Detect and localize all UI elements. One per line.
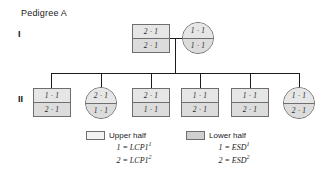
individual-child-1: 1 · 1 2 · 1 — [33, 88, 71, 117]
legend-upper-allele-2: 2 = LCP12 — [86, 153, 176, 166]
legend: Upper half 1 = LCP11 2 = LCP12 Lower hal… — [86, 131, 276, 167]
individual-founder-mother: 1 · 1 1 · 1 — [182, 22, 214, 54]
allele-upper: 1 · 1 — [182, 89, 218, 103]
legend-lower-allele-1: 1 = ESD1 — [186, 140, 276, 153]
legend-lower-allele-2-sup: 2 — [247, 154, 250, 160]
individual-child-4: 1 · 1 2 · 1 — [181, 88, 219, 117]
drop-line-child-3 — [151, 73, 152, 88]
generation-label-1: I — [18, 29, 21, 39]
generation-label-2: II — [18, 94, 23, 104]
legend-heading-upper: Upper half — [109, 131, 146, 140]
legend-heading-lower-row: Lower half — [186, 131, 276, 140]
allele-lower: 2 · 1 — [182, 103, 218, 116]
descent-line — [175, 38, 176, 73]
legend-lower-allele-1-num: 1 = — [218, 143, 231, 152]
legend-upper-allele-2-num: 2 = — [116, 156, 129, 165]
allele-upper: 1 · 1 — [183, 23, 213, 39]
legend-lower-allele-1-gene: ESD — [232, 143, 247, 152]
drop-line-child-1 — [51, 73, 52, 88]
allele-upper: 1 · 1 — [34, 89, 70, 103]
drop-line-child-4 — [200, 73, 201, 88]
legend-lower-allele-2-gene: ESD — [232, 156, 247, 165]
drop-line-child-6 — [299, 73, 300, 88]
allele-lower: 2 · 1 — [34, 103, 70, 116]
drop-line-child-2 — [101, 73, 102, 88]
allele-upper: 2 · 1 — [133, 25, 169, 39]
allele-upper: 2 · 1 — [133, 89, 169, 103]
legend-upper-allele-2-gene: LCP1 — [130, 156, 149, 165]
legend-lower-allele-1-sup: 1 — [247, 141, 250, 147]
legend-heading-lower: Lower half — [209, 131, 246, 140]
allele-upper: 1 · 1 — [232, 89, 268, 103]
legend-lower-allele-2-num: 2 = — [218, 156, 231, 165]
allele-upper: 2 · 1 — [86, 88, 116, 104]
individual-founder-father: 2 · 1 2 · 1 — [132, 24, 170, 53]
legend-upper-allele-1-gene: LCP1 — [130, 143, 149, 152]
legend-column-lower: Lower half 1 = ESD1 2 = ESD2 — [186, 131, 276, 167]
allele-lower: 2 · 1 — [284, 104, 314, 119]
page-title: Pedigree A — [21, 8, 67, 18]
legend-lower-allele-2: 2 = ESD2 — [186, 153, 276, 166]
individual-child-2: 2 · 1 1 · 1 — [85, 87, 117, 119]
legend-upper-allele-2-sup: 2 — [149, 154, 152, 160]
legend-upper-allele-1: 1 = LCP11 — [86, 140, 176, 153]
pedigree-diagram: Pedigree A I II 2 · 1 2 · 1 1 · 1 1 · 1 … — [0, 0, 336, 181]
legend-upper-allele-1-num: 1 = — [116, 143, 129, 152]
individual-child-5: 1 · 1 2 · 1 — [231, 88, 269, 117]
individual-child-6: 1 · 1 2 · 1 — [283, 87, 315, 119]
legend-upper-allele-1-sup: 1 — [149, 141, 152, 147]
allele-lower: 2 · 1 — [133, 39, 169, 52]
allele-upper: 1 · 1 — [284, 88, 314, 104]
allele-lower: 1 · 1 — [183, 39, 213, 54]
allele-lower: 2 · 1 — [232, 103, 268, 116]
allele-lower: 1 · 1 — [133, 103, 169, 116]
individual-child-3: 2 · 1 1 · 1 — [132, 88, 170, 117]
legend-swatch-upper-icon — [86, 131, 105, 140]
legend-column-upper: Upper half 1 = LCP11 2 = LCP12 — [86, 131, 176, 167]
legend-heading-upper-row: Upper half — [86, 131, 176, 140]
sibship-line — [51, 73, 300, 74]
drop-line-child-5 — [250, 73, 251, 88]
legend-swatch-lower-icon — [186, 131, 205, 140]
allele-lower: 1 · 1 — [86, 104, 116, 119]
